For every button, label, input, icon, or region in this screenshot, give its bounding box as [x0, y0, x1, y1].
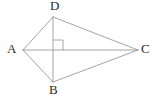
segments-group: [23, 17, 138, 82]
segment-AB: [23, 50, 53, 82]
diagram-canvas: [0, 0, 160, 100]
vertex-label-c: C: [141, 42, 150, 55]
segment-BC: [53, 50, 138, 82]
vertex-label-d: D: [50, 0, 59, 12]
vertex-label-a: A: [7, 42, 16, 55]
segment-DC: [53, 17, 138, 50]
segment-AD: [23, 17, 53, 50]
right-angle-marker: [53, 40, 63, 50]
vertex-label-b: B: [49, 83, 58, 96]
geometry-figure: A B C D: [0, 0, 160, 100]
